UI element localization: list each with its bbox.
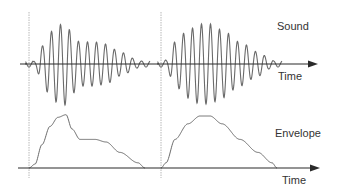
event-onset-dividers (29, 12, 161, 178)
envelope-axis-arrow-icon (310, 165, 320, 172)
time-label-top: Time (278, 70, 302, 82)
sound-label: Sound (277, 20, 309, 32)
envelope-curve (161, 116, 277, 168)
sound-axis-arrow-icon (308, 61, 318, 68)
envelope-label: Envelope (275, 127, 321, 139)
sound-waveform (25, 25, 150, 105)
envelope-curves (29, 115, 277, 168)
envelope-curve (29, 115, 145, 168)
time-label-bottom: Time (282, 174, 306, 186)
